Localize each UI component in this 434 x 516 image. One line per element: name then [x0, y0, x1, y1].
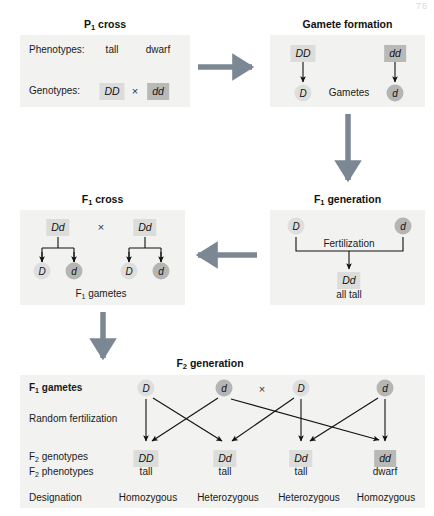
- f2-row-label-phenotypes: F2 phenotypes: [29, 466, 94, 477]
- p1-genotype-dd-recessive: dd: [147, 83, 169, 100]
- f2-row-label-genotypes: F2 genotypes: [29, 451, 88, 462]
- f1-generation-title: F1 generation: [270, 193, 425, 205]
- f2-phenotypes-label-subscript: 2: [35, 471, 39, 478]
- f1-cross-gamete-left-d: D: [34, 263, 51, 280]
- f2-row-label-random-fertilization: Random fertilization: [29, 413, 117, 424]
- f1-cross-title-rest: cross: [92, 193, 123, 205]
- p1-phenotype-tall: tall: [106, 44, 119, 55]
- p1-genotypes-label: Genotypes:: [29, 85, 80, 96]
- f1-gamete-d-recessive: d: [395, 218, 412, 235]
- f2-phenotype-4: dwarf: [373, 466, 397, 477]
- f1-cross-gamete-right-d: D: [121, 263, 138, 280]
- f2-title-subscript: 2: [183, 362, 187, 371]
- f2-gamete-3: D: [293, 380, 310, 397]
- p1-title-letter: P: [84, 18, 91, 30]
- f2-genotype-2: Dd: [213, 450, 236, 467]
- f1-cross-title: F1 cross: [20, 193, 185, 205]
- f2-gamete-4: d: [377, 380, 394, 397]
- f2-gamete-2: d: [216, 380, 233, 397]
- f1-cross-title-subscript: 1: [88, 198, 92, 207]
- f2-genotype-1: DD: [133, 450, 158, 467]
- fertilization-label: Fertilization: [323, 238, 374, 249]
- gamete-parent-dd-dominant: DD: [290, 45, 315, 62]
- genetics-cross-diagram: 76 P1 cross Phenotypes: tall dwarf Genot…: [0, 0, 434, 516]
- p1-cross-title: P1 cross: [20, 18, 190, 30]
- f1-offspring-genotype: Dd: [337, 272, 360, 289]
- f1-gametes-caption: F1 gametes: [75, 288, 126, 299]
- f2-cross-symbol: ×: [259, 383, 265, 395]
- f2-generation-title: F2 generation: [120, 357, 300, 369]
- page-corner-artifact: 76: [416, 1, 428, 11]
- f1-cross-parent-left: Dd: [46, 219, 69, 236]
- f2-title-rest: generation: [187, 357, 244, 369]
- p1-phenotype-dwarf: dwarf: [146, 44, 170, 55]
- f1-cross-gamete-left-d-recessive: d: [66, 263, 83, 280]
- p1-title-subscript: 1: [91, 23, 95, 32]
- gamete-circle-d-dominant: D: [295, 85, 312, 102]
- gamete-parent-dd-recessive: dd: [384, 45, 406, 62]
- f2-genotypes-label-subscript: 2: [35, 456, 39, 463]
- f1-gametes-caption-subscript: 1: [82, 293, 86, 300]
- p1-phenotypes-label: Phenotypes:: [29, 44, 85, 55]
- f2-genotype-3: Dd: [289, 450, 312, 467]
- f2-designation-3: Heterozygous: [278, 492, 340, 503]
- f2-title-letter: F: [176, 357, 182, 369]
- f1-offspring-phenotype: all tall: [336, 289, 362, 300]
- p1-title-rest: cross: [95, 18, 126, 30]
- f1-cross-parent-right: Dd: [133, 219, 156, 236]
- f2-genotypes-label-rest: genotypes: [39, 451, 88, 462]
- f2-designation-2: Heterozygous: [197, 492, 259, 503]
- f2-phenotypes-label-rest: phenotypes: [39, 466, 94, 477]
- f2-designation-1: Homozygous: [119, 492, 177, 503]
- f1-cross-symbol: ×: [98, 221, 104, 233]
- f2-gametes-label-rest: gametes: [39, 382, 82, 393]
- f1-gen-title-rest: generation: [325, 193, 382, 205]
- f2-phenotype-3: tall: [295, 466, 308, 477]
- p1-genotype-dd-dominant: DD: [99, 83, 124, 100]
- f1-gen-title-subscript: 1: [320, 198, 324, 207]
- f2-genotype-4: dd: [374, 450, 396, 467]
- f2-row-label-gametes: F1 gametes: [29, 382, 82, 393]
- f1-gametes-caption-rest: gametes: [85, 288, 126, 299]
- gamete-circle-d-recessive: d: [387, 85, 404, 102]
- gametes-label: Gametes: [329, 87, 370, 98]
- f2-designation-4: Homozygous: [357, 492, 415, 503]
- f1-cross-gamete-right-d-recessive: d: [153, 263, 170, 280]
- f2-phenotype-1: tall: [140, 466, 153, 477]
- f2-phenotype-2: tall: [219, 466, 232, 477]
- f2-gametes-label-subscript: 1: [35, 387, 39, 394]
- f2-row-label-designation: Designation: [29, 492, 82, 503]
- gamete-formation-title: Gamete formation: [270, 18, 425, 30]
- p1-cross-symbol: ×: [132, 85, 138, 97]
- f2-gamete-1: D: [138, 380, 155, 397]
- f1-gamete-d-dominant: D: [288, 218, 305, 235]
